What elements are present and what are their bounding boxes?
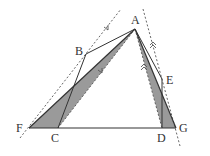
label-D: D [157,131,166,145]
label-G: G [179,121,188,135]
label-C: C [51,131,59,145]
label-B: B [75,44,83,58]
pentagon-ABCDE [58,29,162,128]
double-arrow-marker-right-dotted-2 [150,45,156,48]
label-E: E [166,73,173,87]
label-A: A [131,13,140,27]
geometry-figure: A B E F C D G [0,0,210,156]
label-F: F [16,121,23,135]
